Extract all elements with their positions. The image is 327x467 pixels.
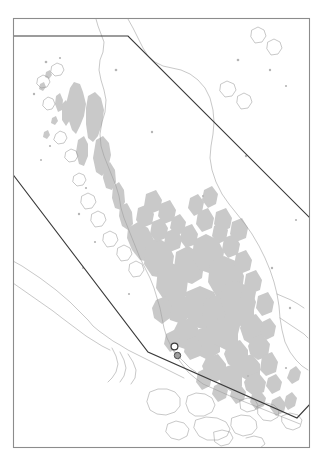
site-marker-filled-circle[interactable] — [174, 352, 180, 358]
map-figure — [0, 0, 327, 467]
site-marker-open-circle[interactable] — [171, 343, 178, 350]
map-canvas — [0, 0, 327, 467]
